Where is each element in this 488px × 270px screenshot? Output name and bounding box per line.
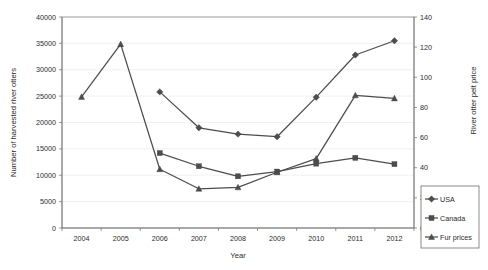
legend-label: Fur prices <box>440 233 472 242</box>
y-axis-left-title: Number of harvested river otters <box>9 68 18 177</box>
x-axis-title: Year <box>230 251 246 260</box>
x-axis-tick-label: 2010 <box>308 234 324 243</box>
y-axis-right-title: River otter pelt price <box>469 67 478 135</box>
x-axis-tick-label: 2004 <box>74 234 90 243</box>
right-axis-tick-label: 100 <box>420 73 432 82</box>
right-axis-tick-label: 140 <box>420 13 432 22</box>
x-axis-tick-label: 2005 <box>113 234 129 243</box>
data-point-square <box>236 174 241 179</box>
x-axis-tick-label: 2009 <box>269 234 285 243</box>
dual-axis-line-chart: 0500010000150002000025000300003500040000… <box>0 0 488 270</box>
x-axis-tick-label: 2012 <box>386 234 402 243</box>
left-axis-tick-label: 40000 <box>36 13 56 22</box>
left-axis-tick-label: 5000 <box>40 197 56 206</box>
right-axis-tick-label: 80 <box>420 103 428 112</box>
left-axis-tick-label: 35000 <box>36 39 56 48</box>
x-axis-tick-label: 2006 <box>152 234 168 243</box>
data-point-square <box>314 161 319 166</box>
left-axis-tick-label: 20000 <box>36 118 56 127</box>
left-axis-tick-label: 0 <box>52 224 56 233</box>
left-axis-tick-label: 15000 <box>36 144 56 153</box>
legend-marker-square <box>429 216 434 221</box>
right-axis-tick-label: 60 <box>420 133 428 142</box>
data-point-square <box>157 151 162 156</box>
legend-label: USA <box>440 195 455 204</box>
legend-label: Canada <box>440 214 465 223</box>
data-point-square <box>392 162 397 167</box>
x-axis-tick-label: 2011 <box>348 234 363 243</box>
left-axis-tick-label: 25000 <box>36 92 56 101</box>
right-axis-tick-label: 40 <box>420 163 428 172</box>
x-axis-tick-label: 2007 <box>191 234 207 243</box>
x-axis-tick-label: 2008 <box>230 234 246 243</box>
left-axis-tick-label: 30000 <box>36 65 56 74</box>
data-point-square <box>353 155 358 160</box>
right-axis-tick-label: 120 <box>420 43 432 52</box>
left-axis-tick-label: 10000 <box>36 171 56 180</box>
chart-legend: USACanadaFur prices <box>421 186 479 248</box>
chart-container: 0500010000150002000025000300003500040000… <box>0 0 488 270</box>
data-point-square <box>196 164 201 169</box>
